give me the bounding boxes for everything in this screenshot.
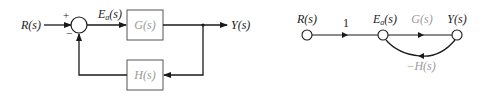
sfg-forward-gain: G(s) [411, 12, 432, 26]
sfg-node-e [378, 30, 388, 40]
feedback-path-to-sum [79, 34, 127, 75]
sfg-feedback-gain: −H(s) [406, 59, 435, 73]
sfg-node-e-label: Ea(s) [372, 12, 397, 27]
forward-block-label: G(s) [134, 18, 155, 32]
sfg-branch-feedback [386, 40, 455, 56]
diagram-canvas: R(s) + − Ea(s) G(s) Y(s) H(s) R(s) 1 E [0, 0, 488, 100]
minus-sign: − [66, 27, 72, 39]
error-label: Ea(s) [97, 7, 122, 22]
sfg-arrowhead-g [418, 32, 424, 38]
feedback-path-to-h [164, 25, 203, 75]
output-label-y: Y(s) [231, 18, 250, 32]
sfg-node-y [452, 30, 462, 40]
summing-junction [71, 17, 87, 33]
sfg-arrowhead-unity [342, 32, 348, 38]
sfg-node-r-label: R(s) [296, 12, 317, 26]
signal-flow-graph: R(s) 1 Ea(s) G(s) Y(s) −H(s) [296, 12, 467, 73]
sfg-node-r [302, 30, 312, 40]
plus-sign: + [63, 9, 69, 21]
block-diagram: R(s) + − Ea(s) G(s) Y(s) H(s) [20, 7, 250, 90]
input-label-r: R(s) [20, 18, 41, 32]
feedback-block-label: H(s) [133, 68, 155, 82]
sfg-unity-gain: 1 [343, 16, 349, 30]
sfg-node-y-label: Y(s) [447, 12, 466, 26]
